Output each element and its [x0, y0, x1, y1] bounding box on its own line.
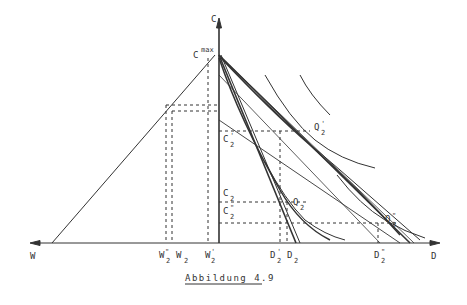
svg-text:2: 2 — [277, 257, 281, 265]
c2-dprime-label: C " 2 — [223, 204, 234, 221]
svg-text:2: 2 — [230, 213, 234, 221]
svg-text:C: C — [223, 134, 228, 144]
w2-label: W 2 — [176, 250, 188, 265]
svg-text:2: 2 — [392, 221, 396, 229]
figure: C C max W D W " 2 W 2 W ' 2 D ' 2 D 2 D … — [0, 0, 467, 305]
svg-text:2: 2 — [321, 129, 325, 137]
svg-text:': ' — [321, 120, 325, 128]
svg-text:W: W — [176, 250, 182, 260]
cmax-label: C max — [193, 46, 214, 60]
up-arrow-icon — [217, 18, 222, 28]
svg-text:D: D — [270, 250, 275, 260]
c2-label: C 2 — [223, 188, 234, 203]
svg-text:2: 2 — [230, 141, 234, 149]
svg-text:': ' — [230, 132, 234, 140]
svg-text:D: D — [287, 250, 292, 260]
w-axis-label: W — [30, 251, 36, 261]
indifference-curve-q2 — [265, 162, 345, 240]
q2-prime-label: Q ' 2 — [314, 120, 325, 137]
svg-text:': ' — [277, 248, 281, 256]
svg-text:': ' — [211, 248, 215, 256]
svg-text:Q: Q — [385, 214, 390, 224]
svg-text:2: 2 — [166, 257, 170, 265]
w2-dprime-label: W " 2 — [159, 248, 170, 265]
c2-prime-label: C ' 2 — [223, 132, 234, 149]
right-arrow-icon — [430, 241, 440, 246]
svg-text:C: C — [223, 206, 228, 216]
figure-caption: Abbildung 4.9 — [185, 273, 275, 283]
curve-main-2 — [221, 58, 400, 235]
svg-text:2: 2 — [381, 257, 385, 265]
svg-text:": " — [392, 212, 396, 220]
budget-line-3 — [219, 120, 400, 243]
svg-text:max: max — [201, 46, 214, 54]
transformation-line-left — [52, 55, 215, 243]
svg-text:C: C — [223, 188, 228, 198]
svg-text:": " — [381, 248, 385, 256]
svg-text:2: 2 — [230, 195, 234, 203]
w2-prime-label: W ' 2 — [205, 248, 215, 265]
svg-text:Q: Q — [293, 197, 298, 207]
svg-text:2: 2 — [300, 204, 304, 212]
svg-text:2: 2 — [294, 257, 298, 265]
diagram-canvas: C C max W D W " 2 W 2 W ' 2 D ' 2 D 2 D … — [0, 0, 467, 305]
svg-text:": " — [165, 248, 169, 256]
d2-label: D 2 — [287, 250, 298, 265]
q2-label: Q 2 — [293, 197, 304, 212]
indifference-curve-top — [300, 75, 330, 115]
svg-text:2: 2 — [211, 257, 215, 265]
d-axis-label: D — [431, 251, 436, 261]
d2-dprime-label: D " 2 — [374, 248, 385, 265]
svg-text:": " — [230, 204, 234, 212]
left-arrow-icon — [30, 241, 40, 246]
d2-prime-label: D ' 2 — [270, 248, 281, 265]
svg-text:D: D — [374, 250, 379, 260]
svg-text:2: 2 — [184, 257, 188, 265]
c-axis-label: C — [211, 14, 216, 24]
svg-text:C: C — [193, 50, 198, 60]
svg-text:Q: Q — [314, 122, 319, 132]
